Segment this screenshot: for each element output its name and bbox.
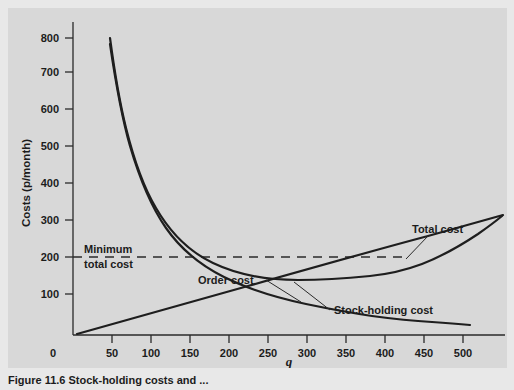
x-tick-label-400: 400 bbox=[376, 347, 394, 359]
x-tick-label-100: 100 bbox=[142, 347, 160, 359]
y-tick-label-400: 400 bbox=[41, 177, 59, 189]
series-order-cost bbox=[110, 44, 470, 325]
y-tick-label-100: 100 bbox=[41, 288, 59, 300]
minimum-total-cost-label-line2: total cost bbox=[84, 258, 133, 270]
y-axis-title: Costs (p/month) bbox=[20, 139, 32, 227]
order-cost-label: Order cost bbox=[198, 274, 254, 286]
x-tick-label-300: 300 bbox=[298, 347, 316, 359]
y-axis-ticks bbox=[65, 38, 73, 294]
x-tick-label-450: 450 bbox=[415, 347, 433, 359]
minimum-total-cost-label-line1: Minimum bbox=[84, 243, 132, 255]
x-axis-title: q bbox=[286, 354, 293, 368]
y-tick-label-200: 200 bbox=[41, 251, 59, 263]
stock-holding-cost-label: Stock-holding cost bbox=[334, 304, 433, 316]
cost-curves-chart: 800 700 600 500 400 300 200 100 Costs (p… bbox=[8, 8, 507, 368]
total-cost-label: Total cost bbox=[412, 223, 463, 235]
x-tick-label-350: 350 bbox=[337, 347, 355, 359]
x-axis-ticks bbox=[112, 335, 463, 343]
x-tick-label-500: 500 bbox=[454, 347, 472, 359]
y-tick-label-300: 300 bbox=[41, 214, 59, 226]
y-tick-label-800: 800 bbox=[41, 32, 59, 44]
x-tick-label-0: 0 bbox=[50, 347, 56, 359]
x-tick-label-150: 150 bbox=[181, 347, 199, 359]
y-tick-label-600: 600 bbox=[41, 103, 59, 115]
figure-panel: 800 700 600 500 400 300 200 100 Costs (p… bbox=[8, 8, 507, 368]
x-tick-label-50: 50 bbox=[106, 347, 118, 359]
x-tick-label-250: 250 bbox=[259, 347, 277, 359]
y-tick-label-700: 700 bbox=[41, 66, 59, 78]
figure-caption: Figure 11.6 Stock-holding costs and ... bbox=[8, 374, 208, 386]
y-tick-label-500: 500 bbox=[41, 140, 59, 152]
x-tick-label-200: 200 bbox=[220, 347, 238, 359]
series-total-cost bbox=[110, 38, 502, 280]
